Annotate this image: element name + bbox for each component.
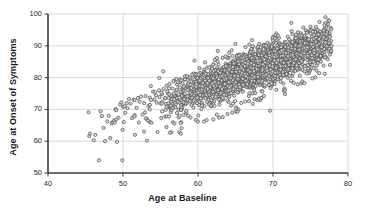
x-tick-label: 80 [336, 179, 360, 188]
y-tick-label: 80 [22, 73, 42, 82]
y-tick-label: 90 [22, 41, 42, 50]
x-tick-label: 60 [186, 179, 210, 188]
scatter-chart-figure: Age at Onset of Symptoms Age at Baseline… [0, 0, 365, 211]
y-axis-title: Age at Onset of Symptoms [8, 12, 18, 182]
data-points [87, 16, 333, 162]
x-tick-label: 70 [261, 179, 285, 188]
x-axis-title: Age at Baseline [0, 193, 365, 203]
x-tick-label: 50 [111, 179, 135, 188]
y-tick-label: 100 [22, 9, 42, 18]
x-tick-label: 40 [36, 179, 60, 188]
y-tick-label: 70 [22, 104, 42, 113]
y-tick-label: 60 [22, 136, 42, 145]
y-tick-label: 50 [22, 168, 42, 177]
